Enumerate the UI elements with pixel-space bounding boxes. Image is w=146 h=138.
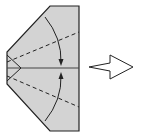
next-step-arrow-icon: [89, 55, 133, 79]
origami-diagram: [0, 0, 146, 138]
